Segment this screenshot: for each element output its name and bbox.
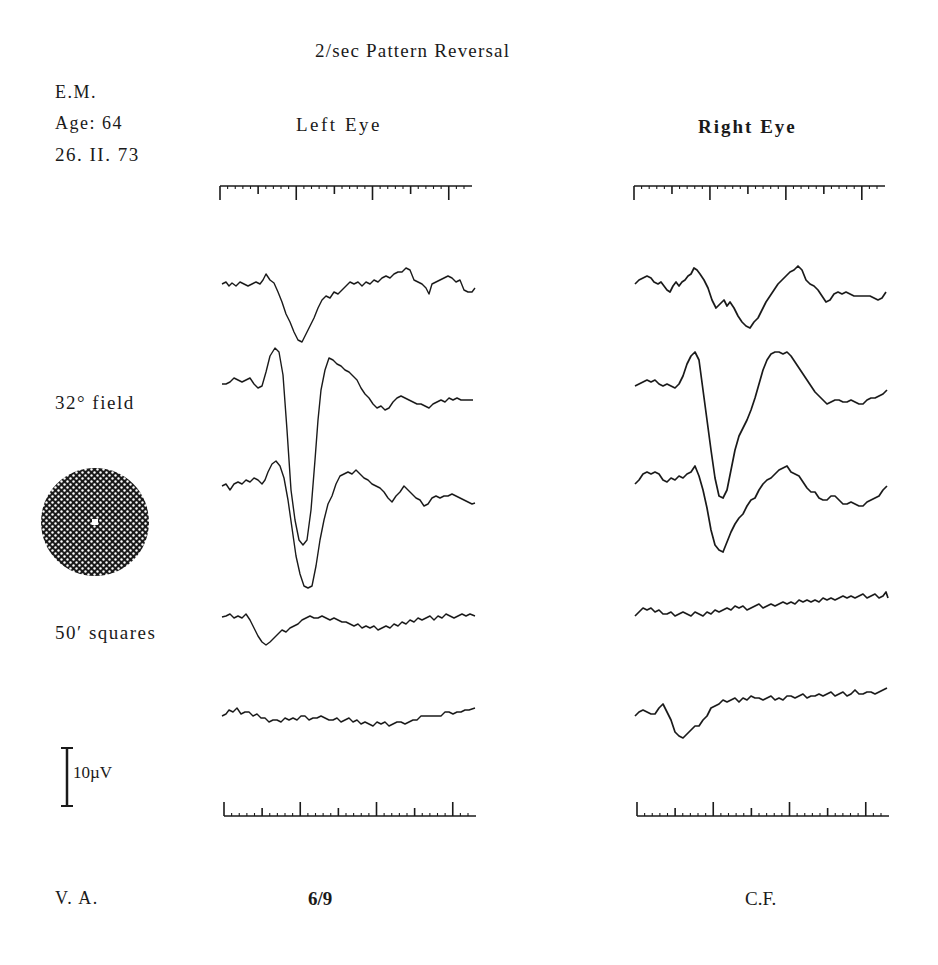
left-trace-2 <box>222 348 473 545</box>
right-trace-4 <box>635 592 888 616</box>
left-trace-3 <box>222 461 475 588</box>
right-trace-2 <box>635 352 887 498</box>
vep-plot <box>0 0 938 965</box>
checkerboard-disc-icon <box>41 468 149 576</box>
left-trace-5 <box>222 708 475 726</box>
left-trace-1 <box>222 268 475 342</box>
right-trace-5 <box>635 688 887 738</box>
right-eye-traces <box>635 266 888 738</box>
left-trace-4 <box>222 614 475 645</box>
right-trace-3 <box>635 466 887 552</box>
right-top-time-ruler <box>634 186 885 200</box>
right-trace-1 <box>635 266 886 328</box>
left-bottom-time-ruler <box>224 802 476 816</box>
left-top-time-ruler <box>220 186 472 200</box>
right-bottom-time-ruler <box>637 802 889 816</box>
left-eye-traces <box>222 268 475 726</box>
scale-bar-icon <box>61 748 73 806</box>
